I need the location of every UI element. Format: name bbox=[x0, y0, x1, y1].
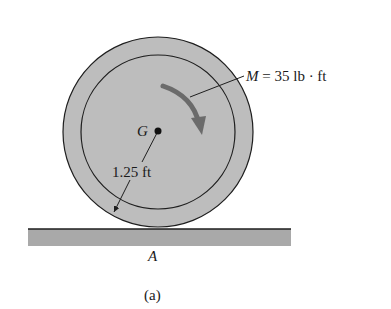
radius-label: 1.25 ft bbox=[112, 164, 152, 180]
ground-surface bbox=[28, 229, 291, 246]
figure-caption: (a) bbox=[144, 287, 161, 304]
moment-label: M = 35 lb · ft bbox=[245, 68, 327, 84]
contact-point-label: A bbox=[147, 248, 158, 264]
diagram-figure: G 1.25 ft M = 35 lb · ft A (a) bbox=[0, 0, 391, 309]
moment-value: = 35 lb · ft bbox=[259, 68, 328, 84]
center-of-mass-dot bbox=[155, 128, 162, 135]
center-label: G bbox=[137, 123, 148, 139]
